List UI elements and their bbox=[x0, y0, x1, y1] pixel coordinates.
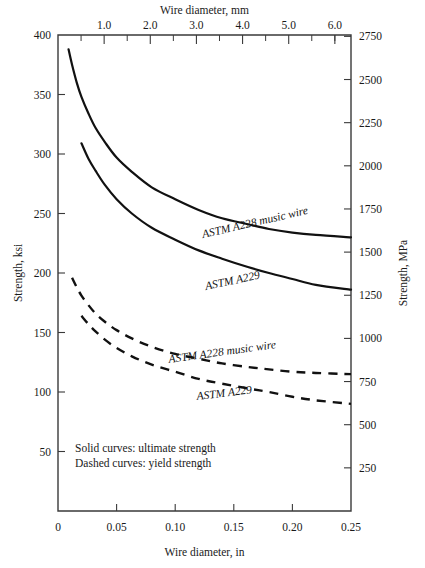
bottom-tick-label: 0.15 bbox=[224, 521, 244, 533]
top-axis-title: Wire diameter, mm bbox=[160, 4, 249, 17]
right-tick-label: 1250 bbox=[359, 289, 382, 301]
left-axis-title: Strength, ksi bbox=[12, 244, 25, 302]
bottom-tick-label: 0 bbox=[55, 521, 61, 533]
top-tick-label: 4.0 bbox=[235, 19, 250, 31]
top-axis-ticks bbox=[81, 35, 335, 44]
curve-astm-a228-music-wire bbox=[69, 49, 351, 237]
plot-frame bbox=[58, 35, 351, 511]
top-tick-label: 2.0 bbox=[143, 19, 158, 31]
curve-label-a228-yield: ASTM A228 music wire bbox=[167, 338, 277, 365]
right-tick-label: 500 bbox=[359, 419, 377, 431]
right-axis-tick-labels: 2505007501000125015001750200022502500275… bbox=[359, 30, 382, 473]
bottom-axis-title: Wire diameter, in bbox=[165, 546, 245, 559]
right-tick-label: 750 bbox=[359, 376, 377, 388]
top-tick-label: 6.0 bbox=[328, 19, 343, 31]
chart-canvas: 50100150200250300350400 2505007501000125… bbox=[0, 0, 425, 568]
curve-label-a229-yield: ASTM A229 bbox=[195, 383, 253, 402]
left-axis-ticks bbox=[58, 95, 65, 452]
left-tick-label: 200 bbox=[34, 267, 52, 279]
top-axis-tick-labels: 1.02.03.04.05.06.0 bbox=[97, 19, 342, 31]
bottom-axis-tick-labels: 00.050.100.150.200.25 bbox=[55, 521, 361, 533]
left-tick-label: 50 bbox=[40, 446, 52, 458]
top-tick-label: 1.0 bbox=[97, 19, 112, 31]
curve-label-a229-ultimate: ASTM A229 bbox=[203, 269, 261, 293]
right-tick-label: 1500 bbox=[359, 246, 382, 258]
left-tick-label: 100 bbox=[34, 386, 52, 398]
right-tick-label: 250 bbox=[359, 462, 377, 474]
left-axis-tick-labels: 50100150200250300350400 bbox=[34, 29, 52, 458]
right-tick-label: 2500 bbox=[359, 74, 382, 86]
top-tick-label: 3.0 bbox=[189, 19, 204, 31]
left-tick-label: 350 bbox=[34, 89, 52, 101]
bottom-axis-ticks bbox=[117, 504, 293, 511]
left-tick-label: 250 bbox=[34, 208, 52, 220]
right-tick-label: 1750 bbox=[359, 203, 382, 215]
strength-vs-wire-diameter-chart: 50100150200250300350400 2505007501000125… bbox=[0, 0, 425, 568]
curve-astm-a228-music-wire-yield bbox=[72, 278, 351, 374]
right-tick-label: 2250 bbox=[359, 117, 382, 129]
right-axis-title: Strength, MPa bbox=[397, 240, 410, 306]
right-tick-label: 2750 bbox=[359, 30, 382, 42]
bottom-tick-label: 0.25 bbox=[341, 521, 361, 533]
left-tick-label: 400 bbox=[34, 29, 52, 41]
bottom-tick-label: 0.10 bbox=[165, 521, 185, 533]
top-tick-label: 5.0 bbox=[282, 19, 297, 31]
bottom-tick-label: 0.05 bbox=[107, 521, 127, 533]
note-solid-curves: Solid curves: ultimate strength bbox=[75, 442, 216, 455]
right-tick-label: 1000 bbox=[359, 332, 382, 344]
note-dashed-curves: Dashed curves: yield strength bbox=[75, 457, 212, 470]
left-tick-label: 300 bbox=[34, 148, 52, 160]
right-tick-label: 2000 bbox=[359, 160, 382, 172]
curve-label-a228-ultimate: ASTM A228 music wire bbox=[200, 204, 309, 240]
left-tick-label: 150 bbox=[34, 327, 52, 339]
bottom-tick-label: 0.20 bbox=[282, 521, 302, 533]
